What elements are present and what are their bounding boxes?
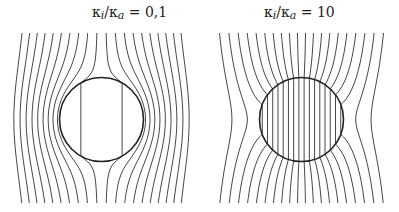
field-line <box>281 33 288 203</box>
field-line <box>20 33 30 203</box>
right-panel-field-lines <box>220 33 384 203</box>
field-line <box>341 33 365 203</box>
field-line <box>173 33 183 203</box>
left-panel-field-lines <box>14 33 189 203</box>
cylinder-circle <box>60 78 144 162</box>
field-lines-diagram <box>0 0 399 212</box>
field-line <box>14 33 22 203</box>
field-line <box>325 33 338 203</box>
field-line <box>142 33 160 203</box>
cylinder-circle <box>260 78 344 162</box>
field-line <box>256 33 273 203</box>
field-line <box>220 33 232 203</box>
field-line <box>298 33 299 203</box>
field-line <box>265 33 278 203</box>
field-line <box>238 33 262 203</box>
field-line <box>43 33 61 203</box>
field-line <box>304 33 305 203</box>
field-line <box>330 33 347 203</box>
field-line <box>371 33 383 203</box>
field-line <box>309 33 313 203</box>
field-line <box>335 33 355 203</box>
field-line <box>247 33 267 203</box>
field-line <box>181 33 189 203</box>
field-line <box>315 33 322 203</box>
field-line <box>290 33 294 203</box>
